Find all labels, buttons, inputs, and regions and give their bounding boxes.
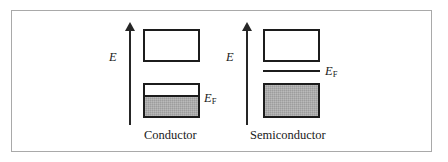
valence-band-conductor	[143, 83, 200, 118]
axis-shaft	[129, 28, 131, 125]
fermi-label-e: E	[325, 64, 333, 78]
conduction-band-conductor	[143, 29, 200, 62]
valence-band-semiconductor	[263, 83, 320, 118]
fermi-level-label-conductor: EF	[204, 92, 216, 105]
valence-band-fill-semiconductor	[265, 85, 318, 116]
valence-band-fill-conductor	[145, 95, 198, 116]
energy-axis-label-semiconductor: E	[226, 51, 234, 64]
caption-semiconductor: Semiconductor	[250, 129, 326, 142]
conduction-band-semiconductor	[263, 29, 320, 62]
axis-shaft	[246, 28, 248, 125]
energy-band-diagram-figure: E EF Conductor E EF	[0, 0, 448, 162]
fermi-label-subscript: F	[212, 96, 217, 106]
fermi-label-e: E	[204, 91, 212, 105]
energy-axis-arrow-semiconductor	[242, 22, 253, 125]
energy-axis-arrow-conductor	[125, 22, 136, 125]
fermi-level-label-semiconductor: EF	[325, 65, 337, 78]
figure-border: E EF Conductor E EF	[11, 10, 432, 152]
fermi-level-line-semiconductor	[263, 70, 320, 72]
fermi-label-subscript: F	[333, 69, 338, 79]
energy-axis-label-conductor: E	[109, 51, 117, 64]
caption-conductor: Conductor	[144, 129, 197, 142]
